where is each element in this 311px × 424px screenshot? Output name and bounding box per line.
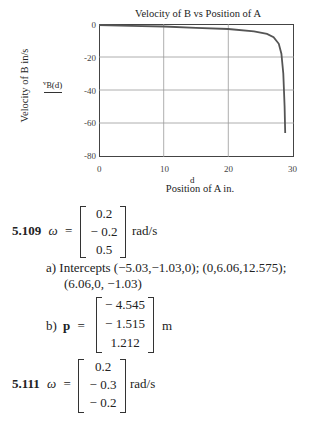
problem-number: 5.109 — [12, 223, 41, 238]
matrix-cell: − 0.2 — [84, 395, 122, 411]
plot-area — [99, 24, 295, 158]
omega-symbol: ω — [49, 223, 58, 238]
unit: rad/s — [132, 223, 157, 239]
chart-title: Velocity of B vs Position of A — [100, 8, 296, 19]
matrix-cell: 0.2 — [86, 206, 122, 222]
omega-symbol: ω — [47, 376, 56, 391]
part-a: a) Intercepts (−5.03,−1.03,0); (0,6.06,1… — [46, 260, 286, 276]
y-axis-function-label: vB(d) — [43, 79, 62, 90]
x-axis-label: Position of A in. — [150, 183, 250, 194]
equals: = — [64, 376, 71, 391]
x-tick: 0 — [97, 164, 102, 174]
x-tick: 10 — [160, 164, 169, 174]
problem-5-109: 5.109 ω = — [12, 223, 72, 239]
bracket-right — [120, 206, 126, 258]
matrix-cell: − 4.545 — [102, 297, 148, 313]
unit: rad/s — [130, 376, 155, 392]
unit: m — [162, 318, 172, 334]
x-tick: 20 — [224, 164, 233, 174]
bracket-right — [120, 359, 126, 413]
y-axis-label: Velocity of B in/s — [19, 36, 30, 136]
part-b-label: b) — [46, 318, 57, 333]
problem-5-111: 5.111 ω = — [12, 376, 71, 392]
fn-arg: (d) — [52, 80, 63, 90]
matrix-cell: − 0.2 — [86, 224, 122, 240]
matrix-cell: 0.5 — [86, 242, 122, 258]
part-b: b) p = — [46, 318, 85, 334]
y-tick: -40 — [66, 86, 96, 96]
y-tick: -80 — [66, 151, 96, 161]
problem-number: 5.111 — [12, 376, 40, 391]
matrix-cell: 0.2 — [84, 359, 122, 375]
equals: = — [78, 318, 85, 333]
matrix-cell: 1.212 — [102, 335, 148, 351]
y-tick: -60 — [66, 118, 96, 128]
fn-underline — [44, 92, 62, 93]
matrix-cell: − 1.515 — [102, 316, 148, 332]
equals: = — [65, 223, 72, 238]
part-a-label: a) — [46, 260, 56, 275]
y-tick: -20 — [66, 53, 96, 63]
matrix-cell: − 0.3 — [84, 377, 122, 393]
y-tick: 0 — [66, 20, 96, 30]
part-a-line2: (6.06,0, −1.03) — [64, 276, 142, 292]
x-tick: 30 — [288, 164, 297, 174]
p-symbol: p — [63, 318, 70, 333]
bracket-right — [148, 297, 154, 353]
part-a-line1: Intercepts (−5.03,−1.03,0); (0,6.06,12.5… — [59, 260, 286, 275]
